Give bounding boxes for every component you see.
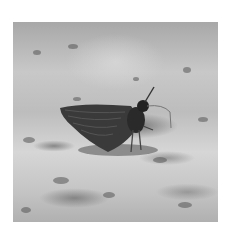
- butterfly-icon: [13, 22, 218, 222]
- butterfly-photo: [13, 22, 218, 222]
